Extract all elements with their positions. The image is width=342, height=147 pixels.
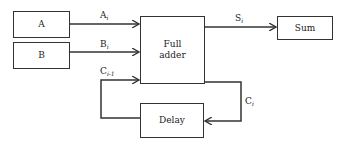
block-delay-label: Delay — [159, 115, 185, 126]
block-full-adder: Full adder — [140, 16, 205, 84]
label-a-i: Ai — [100, 10, 108, 20]
block-a: A — [13, 11, 70, 38]
block-sum: Sum — [277, 16, 333, 40]
label-s-i: Si — [235, 13, 243, 23]
block-b-label: B — [38, 50, 45, 61]
block-b: B — [13, 42, 70, 69]
full-adder-label-line1: Full — [164, 39, 182, 50]
edge-adder-to-delay — [205, 82, 241, 121]
block-delay: Delay — [140, 103, 204, 138]
label-b-i: Bi — [100, 39, 109, 49]
label-c-prev: Ci-1 — [100, 66, 115, 76]
edge-delay-to-adder — [101, 80, 140, 118]
label-c-i: Ci — [245, 96, 254, 106]
full-adder-label-line2: adder — [159, 50, 186, 61]
block-sum-label: Sum — [295, 23, 316, 34]
block-a-label: A — [38, 19, 45, 30]
